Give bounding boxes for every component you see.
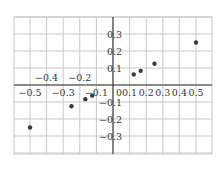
scatter-chart: −0.5−0.4−0.3−0.2−0.100.10.20.30.40.5 0.3…: [0, 0, 218, 170]
data-point: [132, 72, 136, 76]
y-tick-label: 0.1: [107, 63, 122, 74]
x-tick-label: −0.3: [52, 87, 75, 98]
x-tick-label: 0.3: [155, 87, 170, 98]
x-tick-label: −0.2: [68, 72, 91, 83]
x-tick-label: −0.5: [18, 87, 41, 98]
data-point: [152, 62, 156, 66]
y-tick-label: −0.3: [99, 131, 122, 142]
x-tick-label: −0.4: [35, 72, 58, 83]
x-tick-label: 0.1: [122, 87, 137, 98]
y-tick-label: −0.1: [99, 97, 122, 108]
data-point: [28, 125, 32, 129]
data-point: [194, 40, 198, 44]
data-point: [69, 104, 73, 108]
data-point: [83, 97, 87, 101]
data-point: [138, 69, 142, 73]
y-tick-label: 0.3: [107, 29, 122, 40]
x-tick-label: 0.2: [139, 87, 154, 98]
y-tick-label: −0.2: [99, 114, 122, 125]
x-tick-label: 0.5: [188, 87, 203, 98]
x-tick-label: 0.4: [172, 87, 187, 98]
y-tick-label: 0.2: [107, 46, 122, 57]
data-point: [90, 93, 94, 97]
